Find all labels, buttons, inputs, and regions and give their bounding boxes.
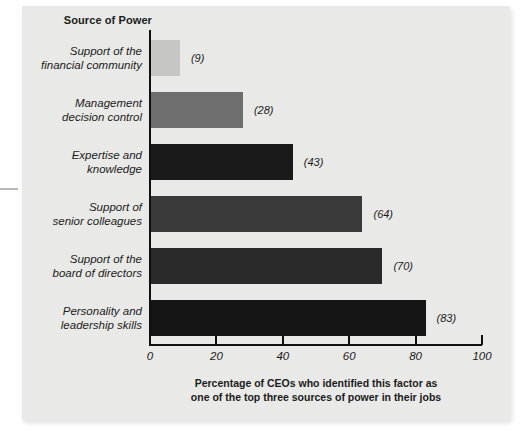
bar-value-label: (28) xyxy=(254,104,274,116)
bar-chart: Source of Power Support of thefinancial … xyxy=(22,6,510,420)
category-label-line-1: Support of the xyxy=(26,44,142,58)
category-label-line-2: financial community xyxy=(26,58,142,72)
category-label: Managementdecision control xyxy=(26,96,142,124)
bar-row: (83) xyxy=(150,300,482,336)
category-label-line-2: decision control xyxy=(26,110,142,124)
y-axis-line xyxy=(149,30,151,346)
x-axis-tick-label: 20 xyxy=(210,350,223,362)
bar-row: (43) xyxy=(150,144,482,180)
category-label-line-1: Support of the xyxy=(26,252,142,266)
bar-row: (28) xyxy=(150,92,482,128)
x-axis-tick xyxy=(215,335,217,345)
category-axis-labels: Support of thefinancial communityManagem… xyxy=(26,32,150,344)
category-label-line-1: Expertise and xyxy=(26,148,142,162)
x-axis-caption: Percentage of CEOs who identified this f… xyxy=(150,376,482,404)
x-axis-tick-label: 0 xyxy=(147,350,153,362)
bar-value-label: (70) xyxy=(393,260,413,272)
figure-panel: Source of Power Support of thefinancial … xyxy=(22,6,510,420)
chart-title: Source of Power xyxy=(38,14,152,26)
bar[interactable] xyxy=(150,40,180,76)
bar-value-label: (64) xyxy=(373,208,393,220)
category-label-line-2: knowledge xyxy=(26,162,142,176)
bar-value-label: (43) xyxy=(304,156,324,168)
x-axis-tick-label: 60 xyxy=(343,350,356,362)
x-axis-caption-line-2: one of the top three sources of power in… xyxy=(150,390,482,404)
x-axis-tick xyxy=(481,335,483,345)
x-axis-line xyxy=(149,344,482,346)
category-label: Personality andleadership skills xyxy=(26,304,142,332)
x-axis-tick-label: 100 xyxy=(472,350,491,362)
category-label: Support ofsenior colleagues xyxy=(26,200,142,228)
bar-value-label: (9) xyxy=(191,52,204,64)
bar[interactable] xyxy=(150,300,426,336)
category-label-line-1: Personality and xyxy=(26,304,142,318)
bars-area: (9)(28)(43)(64)(70)(83) xyxy=(150,32,482,344)
x-axis-tick-label: 80 xyxy=(409,350,422,362)
bar[interactable] xyxy=(150,196,362,232)
category-label: Support of theboard of directors xyxy=(26,252,142,280)
category-label-line-1: Support of xyxy=(26,200,142,214)
category-label-line-2: leadership skills xyxy=(26,318,142,332)
category-label: Expertise andknowledge xyxy=(26,148,142,176)
x-axis-tick xyxy=(282,335,284,345)
bar-value-label: (83) xyxy=(437,312,457,324)
category-label-line-2: senior colleagues xyxy=(26,214,142,228)
bar-row: (64) xyxy=(150,196,482,232)
x-axis-tick xyxy=(348,335,350,345)
category-label: Support of thefinancial community xyxy=(26,44,142,72)
bar[interactable] xyxy=(150,92,243,128)
x-axis-tick xyxy=(149,335,151,345)
bar-row: (70) xyxy=(150,248,482,284)
category-label-line-1: Management xyxy=(26,96,142,110)
x-axis-caption-line-1: Percentage of CEOs who identified this f… xyxy=(150,376,482,390)
bar[interactable] xyxy=(150,248,382,284)
x-axis-tick-label: 40 xyxy=(276,350,289,362)
bar[interactable] xyxy=(150,144,293,180)
bar-row: (9) xyxy=(150,40,482,76)
category-label-line-2: board of directors xyxy=(26,266,142,280)
x-axis-tick xyxy=(415,335,417,345)
page-rule-artifact xyxy=(0,188,18,190)
